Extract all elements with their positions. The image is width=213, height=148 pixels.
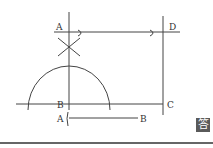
label-B: B — [57, 100, 64, 110]
bottom-divider — [0, 142, 213, 144]
label-C: C — [167, 100, 174, 110]
label-A-top: A — [55, 22, 63, 32]
answer-badge: 答 — [196, 118, 210, 132]
arc-mark-A — [78, 30, 81, 36]
label-D: D — [169, 22, 176, 32]
given-segment-endpoint-arc — [67, 112, 68, 126]
label-A-given: A — [56, 114, 64, 124]
label-B-given: B — [140, 114, 147, 124]
construction-diagram: A D B C A B — [0, 0, 213, 148]
arc-mark-D — [150, 30, 153, 36]
